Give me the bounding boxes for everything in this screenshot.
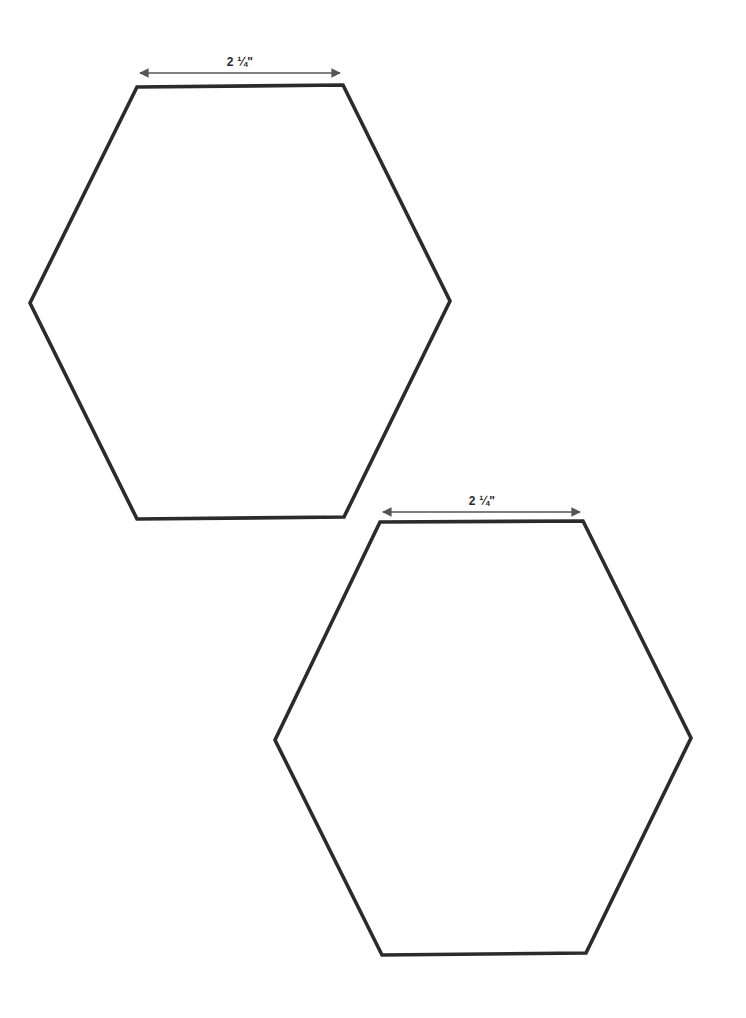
hexagon-1-outline: [30, 85, 450, 519]
hexagon-1-group: [30, 73, 450, 519]
hexagon-2-side-label: 2 ¼": [469, 494, 496, 508]
hexagon-2-group: [275, 512, 691, 955]
hexagon-2-outline: [275, 521, 691, 955]
hexagon-template-canvas: [0, 0, 746, 1018]
hexagon-1-side-label: 2 ¼": [227, 55, 254, 69]
template-page: 2 ¼" 2 ¼": [0, 0, 746, 1018]
